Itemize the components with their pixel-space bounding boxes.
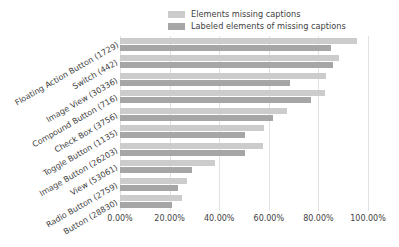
bar <box>120 73 326 79</box>
bar <box>120 45 331 51</box>
bar <box>120 185 178 191</box>
bar <box>120 55 339 61</box>
bar <box>120 97 311 103</box>
bar <box>120 178 187 184</box>
bar-group <box>120 90 368 108</box>
bar-group <box>120 73 368 91</box>
bar <box>120 62 333 68</box>
bar <box>120 132 245 138</box>
bar-chart: Elements missing captions Labeled elemen… <box>0 0 399 247</box>
bar <box>120 150 245 156</box>
gridline <box>368 36 369 211</box>
bar-group <box>120 143 368 161</box>
chart-legend: Elements missing captions Labeled elemen… <box>168 10 346 31</box>
legend-item-label: Labeled elements of missing captions <box>191 22 346 31</box>
x-axis-tick-label: 80.00% <box>303 214 334 223</box>
bar <box>120 202 172 208</box>
legend-item: Elements missing captions <box>168 10 346 19</box>
x-axis-tick-label: 20.00% <box>154 214 185 223</box>
x-axis-tick-label: 100.00% <box>350 214 386 223</box>
x-axis-tick-label: 40.00% <box>204 214 235 223</box>
legend-item: Labeled elements of missing captions <box>168 22 346 31</box>
bar <box>120 195 182 201</box>
legend-item-label: Elements missing captions <box>191 10 300 19</box>
bar <box>120 160 215 166</box>
bar <box>120 167 192 173</box>
bar <box>120 115 273 121</box>
bar <box>120 80 290 86</box>
bar <box>120 125 264 131</box>
legend-swatch-icon <box>168 11 185 18</box>
bar <box>120 90 325 96</box>
bar-group <box>120 38 368 56</box>
x-axis-tick-label: 60.00% <box>254 214 285 223</box>
bar-group <box>120 178 368 196</box>
bar <box>120 38 357 44</box>
bar <box>120 143 263 149</box>
bar-group <box>120 160 368 178</box>
plot-area <box>120 36 368 211</box>
bar-group <box>120 125 368 143</box>
bar-group <box>120 108 368 126</box>
x-axis-tick-label: 0.00% <box>107 214 132 223</box>
bar-group <box>120 55 368 73</box>
legend-swatch-icon <box>168 23 185 30</box>
bar-group <box>120 195 368 213</box>
bar <box>120 108 287 114</box>
